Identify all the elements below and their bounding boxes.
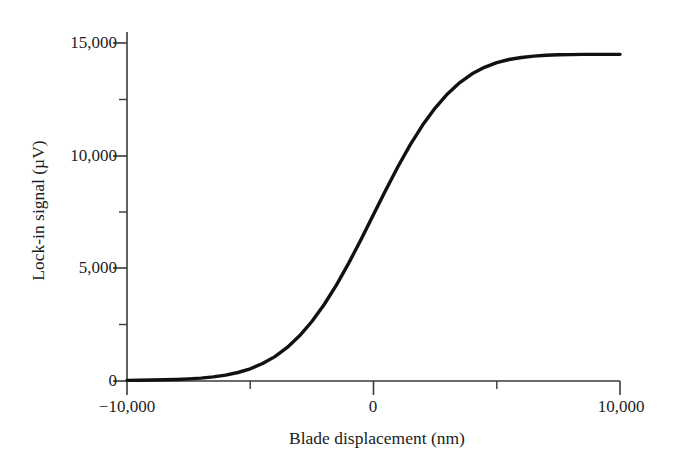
x-tick-label-minus-10000: −10,000	[57, 397, 197, 417]
y-axis-minor-ticks	[119, 100, 127, 325]
x-axis-major-ticks	[127, 381, 620, 395]
plot-svg	[0, 0, 696, 460]
x-axis-title: Blade displacement (nm)	[127, 428, 627, 449]
figure-panel: 15,000 10,000 5,000 0 −10,000 0 10,000 L…	[0, 0, 696, 460]
x-tick-label-0: 0	[323, 397, 423, 417]
x-tick-label-10000: 10,000	[556, 397, 686, 417]
y-tick-label-15000: 15,000	[27, 33, 117, 53]
y-tick-label-0: 0	[27, 371, 117, 391]
data-series-line	[127, 54, 620, 380]
y-axis-title: Lock-in signal (µV)	[28, 96, 49, 326]
